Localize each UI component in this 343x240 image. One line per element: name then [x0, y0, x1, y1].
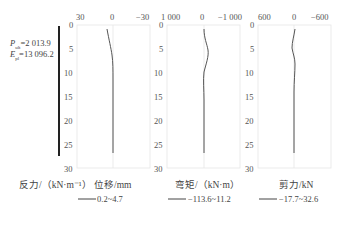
legend-label-3: −17.7~32.6: [279, 194, 318, 204]
moment-axis-label: 弯矩/（kN·m）: [175, 177, 240, 191]
panel-1-curve: [107, 29, 113, 153]
legend-label-2: −113.6~11.2: [188, 194, 231, 204]
displacement-axis-label: 位移/mm: [94, 177, 131, 191]
legend-label-1: 0.2~4.7: [97, 194, 123, 204]
shear-axis-label: 剪力/kN: [279, 177, 313, 191]
panel-3-curve: [292, 29, 295, 153]
